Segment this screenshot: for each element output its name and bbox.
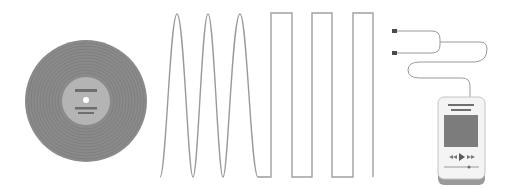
left-earbud-icon — [392, 29, 397, 33]
earphones — [392, 29, 487, 98]
illustration-canvas — [0, 0, 515, 189]
mp3-player — [438, 97, 485, 185]
vinyl-record — [25, 40, 147, 162]
player-artist-line — [451, 109, 471, 111]
spindle-hole — [83, 97, 89, 103]
digital-square-wave — [268, 13, 373, 177]
label-line-top — [75, 89, 97, 92]
illustration-svg — [0, 0, 515, 189]
right-earbud-icon — [392, 51, 397, 55]
player-screen — [444, 115, 478, 147]
player-title-line — [448, 104, 474, 106]
analog-sine-wave — [160, 14, 268, 177]
label-line-mid — [75, 107, 97, 110]
progress-knob — [468, 166, 471, 169]
label-line-bottom — [78, 112, 94, 114]
